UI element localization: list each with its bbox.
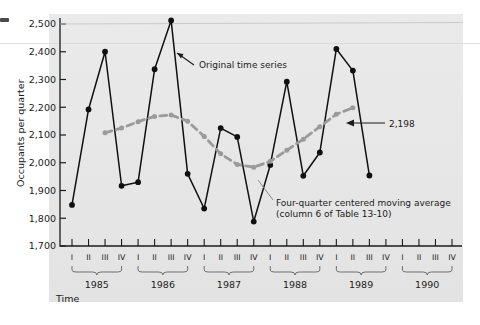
data-point-original — [201, 206, 207, 212]
x-quarter-label: IV — [448, 253, 456, 262]
y-tick-label: 1,700 — [29, 240, 56, 251]
x-year-label: 1986 — [151, 279, 175, 290]
x-quarter-label: II — [417, 253, 422, 262]
data-point-moving-average — [169, 113, 174, 118]
data-point-moving-average — [103, 130, 108, 135]
data-point-moving-average — [284, 148, 289, 153]
x-quarter-label: III — [168, 253, 175, 262]
x-axis-title: Time — [55, 293, 79, 304]
data-point-moving-average — [334, 112, 339, 117]
x-year-label: 1990 — [415, 279, 439, 290]
year-brace — [72, 266, 122, 275]
data-point-original — [300, 173, 306, 179]
value-2198-label: 2,198 — [389, 119, 415, 129]
x-quarter-label: I — [335, 253, 337, 262]
original-series-arrowhead — [177, 53, 184, 59]
data-point-moving-average — [301, 137, 306, 142]
data-point-original — [218, 125, 224, 131]
x-quarter-label: III — [432, 253, 439, 262]
x-quarter-label: IV — [184, 253, 192, 262]
data-point-original — [333, 46, 339, 52]
x-quarter-label: III — [300, 253, 307, 262]
figure-canvas: 1,7001,8001,9002,0002,1002,2002,3002,400… — [0, 0, 480, 325]
data-point-original — [152, 66, 158, 72]
x-quarter-label: II — [86, 253, 91, 262]
data-point-original — [168, 17, 174, 23]
y-tick-label: 2,500 — [29, 18, 56, 29]
x-quarter-label: I — [71, 253, 73, 262]
top-reference-rule — [60, 23, 463, 25]
data-point-original — [69, 202, 75, 208]
y-tick-label: 2,400 — [29, 46, 56, 57]
data-point-moving-average — [251, 165, 256, 170]
series-group — [69, 17, 372, 224]
data-point-moving-average — [202, 134, 207, 139]
x-quarter-label: II — [152, 253, 157, 262]
x-year-label: 1988 — [283, 279, 307, 290]
x-year-label: 1987 — [217, 279, 241, 290]
moving-average-annotation-sub: (column 6 of Table 13-10) — [276, 209, 391, 219]
annotations-group: Original time series2,198Four-quarter ce… — [177, 53, 451, 219]
data-point-original — [135, 179, 141, 185]
y-tick-label: 1,800 — [29, 213, 56, 224]
x-quarter-label: IV — [250, 253, 258, 262]
data-point-moving-average — [218, 151, 223, 156]
year-brace — [402, 266, 452, 275]
series-line-original — [72, 20, 369, 221]
y-tick-label: 1,900 — [29, 185, 56, 196]
y-tick-label: 2,000 — [29, 157, 56, 168]
data-point-original — [284, 79, 290, 85]
data-point-original — [317, 150, 323, 156]
y-tick-label: 2,100 — [29, 129, 56, 140]
x-quarter-label: II — [351, 253, 356, 262]
data-point-moving-average — [350, 105, 355, 110]
x-quarter-label: IV — [382, 253, 390, 262]
x-year-label: 1985 — [85, 279, 109, 290]
data-point-original — [185, 171, 191, 177]
value-2198-arrowhead — [346, 120, 354, 127]
chart-svg: 1,7001,8001,9002,0002,1002,2002,3002,400… — [0, 0, 480, 325]
x-quarter-label: II — [218, 253, 223, 262]
x-quarter-label: II — [284, 253, 289, 262]
year-brace — [138, 266, 188, 275]
data-point-original — [234, 134, 240, 140]
data-point-original — [251, 219, 257, 225]
x-quarter-label: IV — [118, 253, 126, 262]
x-quarter-label: III — [234, 253, 241, 262]
x-quarter-label: I — [269, 253, 271, 262]
y-tick-label: 2,300 — [29, 74, 56, 85]
moving-average-annotation: Four-quarter centered moving average — [276, 198, 451, 208]
axis-lines — [60, 18, 462, 246]
data-point-moving-average — [152, 114, 157, 119]
x-quarter-label: III — [102, 253, 109, 262]
year-brace — [204, 266, 254, 275]
data-point-moving-average — [268, 159, 273, 164]
x-quarter-label: I — [203, 253, 205, 262]
year-brace — [336, 266, 386, 275]
x-year-label: 1989 — [349, 279, 373, 290]
year-brace — [270, 266, 320, 275]
data-point-original — [350, 68, 356, 74]
data-point-original — [86, 107, 92, 113]
original-series-annotation: Original time series — [199, 60, 287, 70]
x-quarter-label: III — [366, 253, 373, 262]
data-point-original — [102, 49, 108, 55]
data-point-moving-average — [317, 124, 322, 129]
y-tick-label: 2,200 — [29, 102, 56, 113]
data-point-moving-average — [136, 119, 141, 124]
x-quarter-label: I — [137, 253, 139, 262]
x-quarter-label: I — [401, 253, 403, 262]
data-point-moving-average — [119, 126, 124, 131]
data-point-moving-average — [185, 119, 190, 124]
data-point-original — [366, 173, 372, 179]
data-point-original — [119, 183, 125, 189]
y-axis-title: Occupants per quarter — [15, 79, 26, 187]
x-quarter-label: IV — [316, 253, 324, 262]
data-point-moving-average — [235, 162, 240, 167]
